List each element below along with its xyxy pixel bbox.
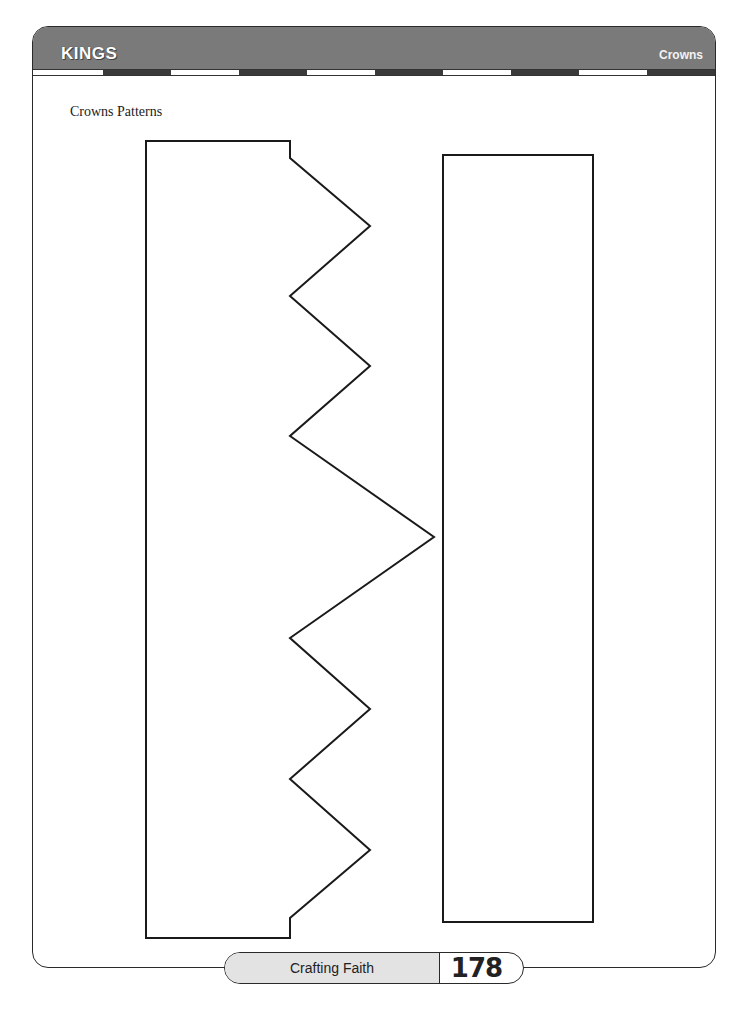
crown-band-pattern: [443, 155, 593, 922]
footer-tab: Crafting Faith 178: [224, 952, 524, 984]
crown-patterns: [0, 0, 750, 1010]
crown-front-pattern: [146, 141, 434, 938]
footer-book-title: Crafting Faith: [225, 953, 440, 983]
page-number: 178: [440, 953, 523, 983]
